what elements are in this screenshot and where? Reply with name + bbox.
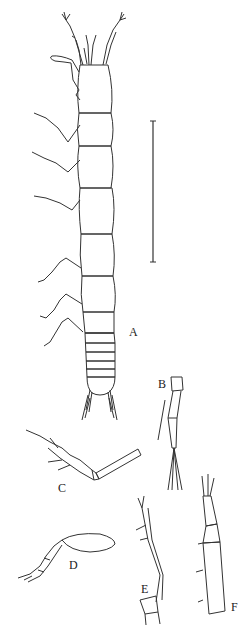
label-b: B bbox=[158, 378, 166, 390]
specimen-illustration bbox=[0, 0, 250, 631]
antenna-e bbox=[136, 496, 163, 625]
label-a: A bbox=[129, 326, 138, 338]
label-f: F bbox=[231, 601, 238, 613]
leg-c bbox=[26, 430, 141, 480]
habitus-a bbox=[32, 12, 126, 420]
appendage-b bbox=[158, 377, 183, 490]
label-c: C bbox=[58, 482, 66, 494]
leg-d bbox=[18, 534, 115, 582]
label-e: E bbox=[141, 583, 148, 595]
antenna-f bbox=[196, 474, 225, 614]
label-d: D bbox=[69, 559, 78, 571]
